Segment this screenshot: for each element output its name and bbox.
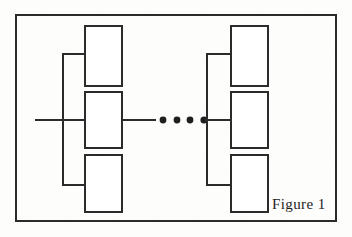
left-box-middle [85,92,122,148]
right-box-middle [231,92,268,148]
left-block-group [35,26,122,212]
figure-caption: Figure 1 [272,196,326,212]
figure-container: Figure 1 [0,0,352,237]
right-box-bottom [231,155,268,212]
continuation-ellipsis-group [122,116,231,123]
left-box-top [85,26,122,86]
figure-canvas: Figure 1 [0,0,352,237]
right-box-top [231,26,268,86]
left-box-bottom [85,155,122,212]
ellipsis-dot-2 [174,117,181,124]
ellipsis-dot-1 [160,117,167,124]
ellipsis-dot-3 [187,117,194,124]
